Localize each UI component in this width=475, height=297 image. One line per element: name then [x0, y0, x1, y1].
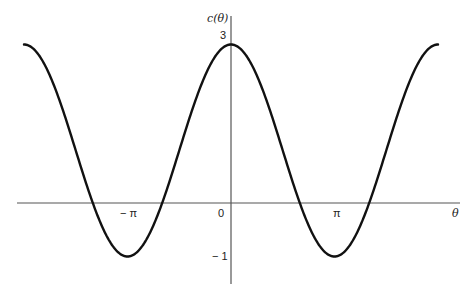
origin-label: 0 [218, 207, 224, 219]
x-tick-pi: π [333, 207, 341, 219]
y-tick-neg1: − 1 [212, 250, 228, 262]
x-tick-neg-pi: − π [120, 207, 137, 219]
y-axis-label: c(θ) [207, 12, 228, 25]
x-axis-label: θ [452, 207, 459, 220]
y-tick-3: 3 [220, 29, 226, 41]
cosine-plot [0, 0, 475, 297]
